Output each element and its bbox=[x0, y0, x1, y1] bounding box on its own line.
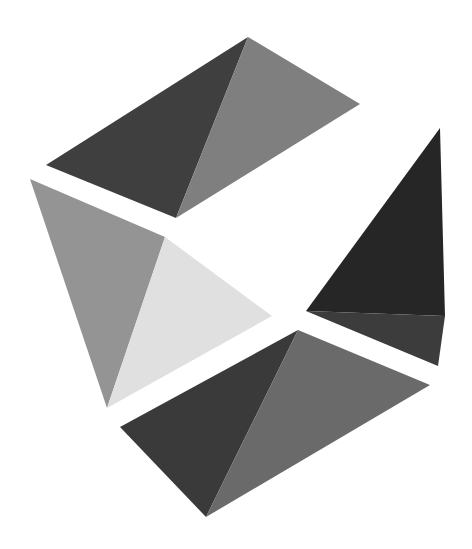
geometric-logo bbox=[0, 0, 472, 549]
right-piece bbox=[306, 128, 445, 366]
right-piece-dark-facet bbox=[306, 128, 445, 316]
top-piece bbox=[46, 37, 360, 218]
